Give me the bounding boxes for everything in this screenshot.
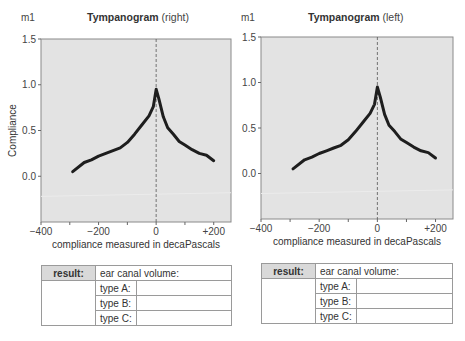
type-c-label: type C: (96, 311, 137, 326)
x-axis-label: compliance measured in decaPascals (52, 239, 220, 250)
result-header: result: (42, 266, 96, 281)
type-a-label: type A: (316, 279, 357, 294)
type-b-value[interactable] (356, 294, 452, 309)
x-axis-label: compliance measured in decaPascals (273, 236, 441, 247)
y-tick-label: 1.0 (22, 79, 36, 90)
y-tick-label: 0.0 (22, 171, 36, 182)
y-tick-label: 0.0 (242, 168, 256, 179)
y-tick-label: 1.5 (242, 32, 256, 43)
y-tick-label: 1.5 (22, 34, 36, 45)
tympanogram-left-panel: m1 Tympanogram (left) 0.00.51.01.5−400−2… (233, 0, 465, 341)
x-tick-label: 0 (375, 223, 381, 234)
result-table: result: ear canal volume: type A: type B… (261, 263, 453, 324)
result-table: result: ear canal volume: type A: type B… (41, 265, 232, 326)
y-tick-label: 0.5 (242, 123, 256, 134)
ear-canal-volume-label: ear canal volume: (316, 264, 453, 279)
tympanogram-chart: 0.00.51.01.5−400−2000+200compliance meas… (233, 0, 465, 260)
y-axis-label: Compliance (7, 104, 18, 157)
type-a-value[interactable] (356, 279, 452, 294)
y-tick-label: 1.0 (242, 77, 256, 88)
x-tick-label: −200 (87, 226, 110, 237)
x-tick-label: −200 (308, 223, 331, 234)
type-b-value[interactable] (136, 296, 231, 311)
x-tick-label: −400 (30, 226, 53, 237)
x-tick-label: −400 (250, 223, 273, 234)
result-value-cell (42, 281, 96, 326)
tympanogram-right-panel: m1 Tympanogram (right) 0.00.51.01.5−400−… (0, 0, 232, 341)
ear-canal-volume-label: ear canal volume: (96, 266, 232, 281)
y-tick-label: 0.5 (22, 125, 36, 136)
x-tick-label: +200 (202, 226, 225, 237)
type-b-label: type B: (96, 296, 137, 311)
type-c-value[interactable] (356, 309, 452, 324)
type-a-value[interactable] (136, 281, 231, 296)
tympanogram-chart: 0.00.51.01.5−400−2000+200compliance meas… (0, 0, 232, 260)
result-value-cell (262, 279, 316, 324)
type-b-label: type B: (316, 294, 357, 309)
x-tick-label: +200 (424, 223, 447, 234)
type-a-label: type A: (96, 281, 137, 296)
x-tick-label: 0 (153, 226, 159, 237)
type-c-label: type C: (316, 309, 357, 324)
result-header: result: (262, 264, 316, 279)
type-c-value[interactable] (136, 311, 231, 326)
